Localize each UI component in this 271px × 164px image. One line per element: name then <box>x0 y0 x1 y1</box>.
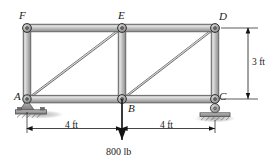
joint-label-E: E <box>118 10 125 21</box>
joint-label-C: C <box>219 91 226 102</box>
dimension-label-span-left: 4 ft <box>65 121 78 131</box>
dimension-label-span-right: 4 ft <box>160 121 173 131</box>
joint-pin-A <box>23 95 31 103</box>
member-D-C <box>211 27 219 101</box>
member-F-A <box>23 27 31 101</box>
roller-support-C <box>194 104 236 123</box>
joint-label-A: A <box>14 91 21 102</box>
joint-label-F: F <box>19 10 26 21</box>
truss-drawing-canvas <box>0 0 271 164</box>
dimension-label-height-right: 3 ft <box>252 58 265 68</box>
member-E-B <box>118 27 126 101</box>
load-label-800lb: 800 lb <box>106 147 131 157</box>
member-A-E <box>25 25 125 103</box>
truss-diagram: F E D A B C 4 ft 4 ft 3 ft 800 lb <box>0 0 271 164</box>
joint-pin-D <box>211 24 220 33</box>
joint-label-D: D <box>219 11 227 22</box>
joint-label-B: B <box>128 103 135 114</box>
member-B-D <box>120 25 218 103</box>
joint-pin-F <box>23 24 32 33</box>
joint-pin-E <box>118 24 127 33</box>
